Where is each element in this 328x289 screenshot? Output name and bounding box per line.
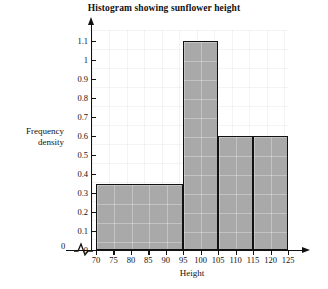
y-tick-mark [91,193,96,194]
y-tick-label: 0.9 [28,75,88,84]
y-tick-mark [91,136,96,137]
y-tick-mark [91,98,96,99]
y-tick-mark [91,174,96,175]
plot-area: 00.10.20.30.40.50.60.70.80.911.1 7075808… [0,0,328,289]
histogram-bar [183,41,218,250]
y-axis-title-line1: Frequency [2,126,64,137]
x-axis-arrow-icon [302,247,310,253]
y-tick-label: 0.8 [28,94,88,103]
y-tick-mark [91,155,96,156]
y-axis-line [91,24,92,251]
histogram-bar [253,136,288,250]
x-axis-line [66,250,303,251]
y-axis-title-line2: density [2,137,64,148]
y-tick-mark [91,231,96,232]
y-tick-label: 1.1 [28,37,88,46]
y-tick-label: 0.3 [28,189,88,198]
y-tick-mark [91,212,96,213]
x-tick-label: 125 [276,255,300,265]
histogram-figure: Histogram showing sunflower height 00.10… [0,0,328,289]
y-tick-mark [91,60,96,61]
y-tick-label: 0.7 [28,113,88,122]
y-tick-label: 1 [28,56,88,65]
y-tick-mark [91,41,96,42]
y-tick-label: 0.2 [28,208,88,217]
x-origin-label: 0 [61,241,65,251]
y-axis-title: Frequency density [2,126,64,148]
x-axis-title: Height [96,268,288,278]
y-tick-label: 0.1 [28,227,88,236]
y-tick-mark [91,117,96,118]
y-tick-label: 0.4 [28,170,88,179]
axis-break-zigzag-icon [74,241,94,257]
y-tick-mark [91,79,96,80]
histogram-bar [218,136,253,250]
histogram-bar [96,184,183,251]
y-tick-label: 0.5 [28,151,88,160]
y-axis-arrow-icon [88,17,94,25]
